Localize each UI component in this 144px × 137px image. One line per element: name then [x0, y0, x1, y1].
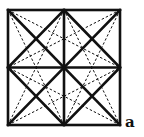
bold-lines — [8, 10, 120, 125]
vertex-label-a: a — [125, 113, 135, 131]
geometric-square-diagram: a — [0, 0, 144, 137]
